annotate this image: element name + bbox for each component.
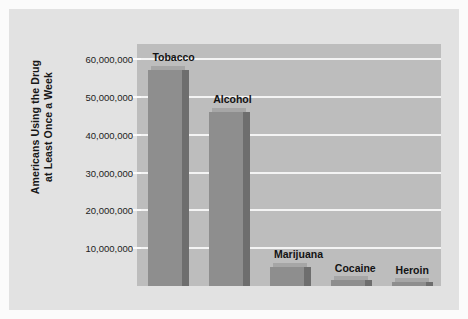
- bar-side-face: [304, 267, 311, 286]
- y-axis-tick-mark: [133, 172, 141, 174]
- bar-label-alcohol: Alcohol: [213, 93, 252, 105]
- chart-panel: Americans Using the Drug at Least Once a…: [9, 9, 459, 310]
- bar-label-heroin: Heroin: [396, 264, 429, 276]
- y-axis-tick-label: 20,000,000: [67, 205, 133, 216]
- bar-side-face: [182, 70, 189, 286]
- bar-label-cocaine: Cocaine: [335, 262, 376, 274]
- y-axis-tick-label: 60,000,000: [67, 54, 133, 65]
- bar-cocaine: [331, 280, 365, 286]
- chart-figure: Americans Using the Drug at Least Once a…: [0, 0, 468, 319]
- bar-tobacco: [148, 70, 182, 286]
- y-axis-tick-label: 40,000,000: [67, 129, 133, 140]
- y-axis-tick-mark: [133, 96, 141, 98]
- y-axis-tick-label: 50,000,000: [67, 91, 133, 102]
- bar-side-face: [365, 280, 372, 286]
- bar-alcohol: [209, 112, 243, 286]
- y-axis-tick-label: 30,000,000: [67, 167, 133, 178]
- y-axis-title-line-1: Americans Using the Drug: [29, 22, 42, 232]
- bar-top-face: [334, 276, 368, 280]
- bar-heroin: [392, 282, 426, 286]
- y-axis-tick-mark: [133, 134, 141, 136]
- y-axis-title-line-2: at Least Once a Week: [42, 22, 55, 232]
- y-axis-tick-mark: [133, 58, 141, 60]
- bar-label-tobacco: Tobacco: [152, 51, 194, 63]
- bar-side-face: [426, 282, 433, 286]
- y-axis-title: Americans Using the Drug at Least Once a…: [29, 22, 55, 232]
- y-axis-tick-labels: 10,000,00020,000,00030,000,00040,000,000…: [67, 44, 133, 286]
- bar-top-face: [273, 263, 307, 267]
- y-axis-tick-label: 10,000,000: [67, 243, 133, 254]
- bar-top-face: [212, 108, 246, 112]
- y-axis-tick-mark: [133, 209, 141, 211]
- bar-side-face: [243, 112, 250, 286]
- bar-top-face: [395, 278, 429, 282]
- bar-label-marijuana: Marijuana: [274, 248, 323, 260]
- bar-top-face: [151, 66, 185, 70]
- bar-marijuana: [270, 267, 304, 286]
- y-axis-tick-mark: [133, 247, 141, 249]
